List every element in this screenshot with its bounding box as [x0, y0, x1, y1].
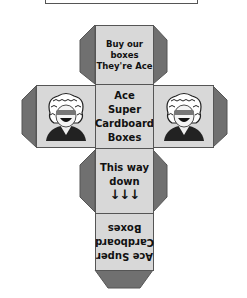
face-top-line1: Buy our boxes [96, 39, 153, 61]
face-center-line3: Boxes [108, 131, 142, 145]
face-bottom-line2: Cardboard [95, 235, 154, 249]
mascot-icon [158, 91, 210, 143]
tab-bottom [95, 270, 153, 288]
face-center-line2: Cardboard [95, 117, 154, 131]
tab-down-right [153, 150, 167, 212]
face-bottom: Ace Super Cardboard Boxes [95, 213, 154, 271]
face-center-line1: Ace Super [96, 89, 153, 117]
face-right [153, 85, 214, 148]
face-center: Ace Super Cardboard Boxes [95, 84, 154, 149]
face-down: This way down ↓↓↓ [95, 148, 154, 214]
face-bottom-line1: Ace Super [96, 249, 153, 263]
face-bottom-text: Ace Super Cardboard Boxes [95, 221, 154, 263]
tab-top-right [153, 25, 167, 84]
face-top: Buy our boxes They're Ace [95, 25, 154, 85]
tab-right-outer [213, 86, 227, 147]
face-top-line2: They're Ace [96, 61, 152, 72]
down-arrows-icon: ↓↓↓ [110, 189, 140, 201]
mascot-icon [40, 91, 92, 143]
face-left [36, 85, 96, 148]
tab-down-left [80, 150, 95, 212]
face-down-line1: This way [100, 161, 149, 175]
face-bottom-line3: Boxes [108, 221, 142, 235]
tab-top-left [80, 25, 95, 84]
tab-left-outer [22, 86, 36, 147]
